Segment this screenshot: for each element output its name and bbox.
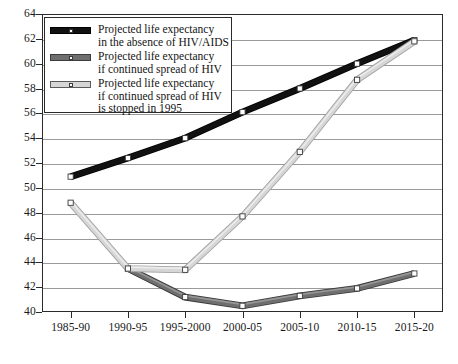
y-axis-tick: [36, 14, 42, 15]
legend-item-continued-spread: Projected life expectancy if continued s…: [50, 50, 227, 75]
legend-swatch-dark-gray-icon: [50, 54, 91, 61]
y-axis-tick-label: 64: [4, 8, 36, 20]
x-axis-tick-label: 1985-90: [51, 322, 90, 334]
data-point-marker: [240, 303, 245, 308]
y-axis-tick-label: 44: [4, 256, 36, 268]
y-axis-tick-label: 60: [4, 58, 36, 70]
legend-label-spread-stopped-1995: Projected life expectancy if continued s…: [98, 77, 222, 115]
data-point-marker: [125, 266, 130, 271]
y-axis-tick: [36, 64, 42, 65]
data-point-marker: [183, 295, 188, 300]
y-axis-tick: [36, 138, 42, 139]
data-point-marker: [297, 86, 302, 91]
y-axis-tick: [36, 262, 42, 263]
x-axis-tick: [243, 312, 244, 318]
x-axis-tick-label: 1990-95: [108, 322, 147, 334]
y-axis-tick-label: 54: [4, 132, 36, 144]
y-axis-tick-label: 58: [4, 83, 36, 95]
legend-swatch-black-icon: [50, 27, 91, 34]
y-axis-tick: [36, 113, 42, 114]
chart-legend: Projected life expectancy in the absence…: [44, 17, 232, 113]
x-axis-tick-label: 1995-2000: [160, 322, 211, 334]
data-point-marker: [240, 109, 245, 114]
x-axis-tick: [71, 312, 72, 318]
legend-label-continued-spread: Projected life expectancy if continued s…: [98, 50, 222, 75]
data-point-marker: [297, 293, 302, 298]
y-axis-tick-label: 50: [4, 182, 36, 194]
y-axis-tick-label: 48: [4, 207, 36, 219]
y-axis-tick: [36, 238, 42, 239]
y-axis-tick: [36, 312, 42, 313]
y-axis-tick-label: 52: [4, 157, 36, 169]
data-point-marker: [354, 77, 359, 82]
x-axis-tick-label: 2000-05: [223, 322, 262, 334]
x-axis-tick-label: 2015-20: [395, 322, 434, 334]
y-axis-tick-label: 42: [4, 281, 36, 293]
data-point-marker: [183, 136, 188, 141]
x-axis-tick: [185, 312, 186, 318]
legend-item-spread-stopped-1995: Projected life expectancy if continued s…: [50, 77, 227, 115]
data-point-marker: [354, 61, 359, 66]
data-point-marker: [412, 39, 417, 44]
x-axis-tick-label: 2005-10: [280, 322, 319, 334]
y-axis-tick: [36, 287, 42, 288]
y-axis-tick: [36, 39, 42, 40]
y-axis-tick-label: 46: [4, 232, 36, 244]
data-point-marker: [297, 149, 302, 154]
y-axis-tick: [36, 188, 42, 189]
y-axis-tick: [36, 89, 42, 90]
y-axis-tick-label: 56: [4, 107, 36, 119]
legend-swatch-light-gray-icon: [50, 81, 91, 88]
y-axis-tick: [36, 163, 42, 164]
data-point-marker: [125, 155, 130, 160]
x-axis-tick: [300, 312, 301, 318]
y-axis-tick: [36, 213, 42, 214]
x-axis-tick: [128, 312, 129, 318]
x-axis-tick: [357, 312, 358, 318]
data-point-marker: [68, 200, 73, 205]
y-axis: 40424446485052545658606264: [0, 0, 36, 364]
legend-item-no-hiv-aids: Projected life expectancy in the absence…: [50, 23, 227, 48]
data-point-marker: [68, 174, 73, 179]
x-axis-tick-label: 2010-15: [338, 322, 377, 334]
data-point-marker: [412, 271, 417, 276]
y-axis-tick-label: 40: [4, 306, 36, 318]
x-axis-tick: [414, 312, 415, 318]
y-axis-tick-label: 62: [4, 33, 36, 45]
data-point-marker: [354, 286, 359, 291]
data-point-marker: [183, 267, 188, 272]
data-point-marker: [240, 214, 245, 219]
life-expectancy-line-chart: 40424446485052545658606264 1985-901990-9…: [0, 0, 458, 364]
legend-label-no-hiv-aids: Projected life expectancy in the absence…: [98, 23, 229, 48]
